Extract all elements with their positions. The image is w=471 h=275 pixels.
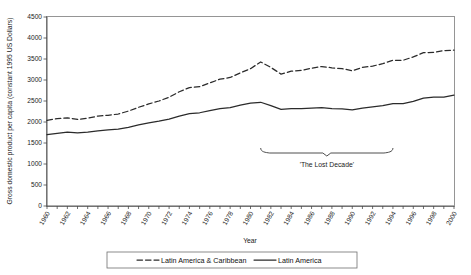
y-axis-title: Gross domestic product per capita (const… [6, 18, 14, 205]
y-tick-label: 2500 [27, 97, 42, 104]
y-tick-label: 500 [31, 181, 42, 188]
y-tick-label: 3000 [27, 76, 42, 83]
legend-label-2: Latin America [278, 256, 322, 265]
y-tick-label: 4500 [27, 13, 42, 20]
chart-figure: 050010001500200025003000350040004500 196… [0, 0, 471, 275]
chart-legend: Latin America & CaribbeanLatin America [107, 252, 357, 268]
y-tick-label: 3500 [27, 55, 42, 62]
lost-decade-label: 'The Lost Decade' [300, 161, 354, 168]
y-tick-label: 0 [38, 202, 42, 209]
gdp-per-capita-line-chart: 050010001500200025003000350040004500 196… [0, 0, 471, 275]
y-tick-label: 2000 [27, 118, 42, 125]
x-axis-title: Year [243, 237, 257, 244]
y-tick-label: 1500 [27, 139, 42, 146]
y-tick-label: 4000 [27, 34, 42, 41]
y-tick-label: 1000 [27, 160, 42, 167]
figure-background [0, 0, 471, 275]
legend-label-1: Latin America & Caribbean [161, 256, 247, 265]
